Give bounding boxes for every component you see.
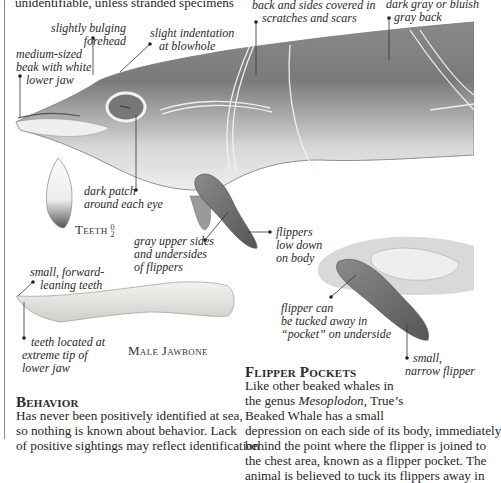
- intro-text-fragment: unidentifiable, unless stranded specimen…: [15, 0, 234, 10]
- text-span: the genus: [245, 393, 295, 408]
- label-line: lower jaw: [16, 74, 91, 87]
- flipper-pockets-text: Like other beaked whales in the genus Me…: [245, 378, 501, 483]
- label-line: gray back: [386, 11, 479, 24]
- teeth-caption-text: Teeth: [75, 222, 107, 237]
- label-beak: medium-sized beak with white lower jaw: [16, 48, 91, 87]
- label-line: around each eye: [84, 198, 163, 211]
- text-line: Beaked Whale has a small: [245, 408, 501, 423]
- text-line: depression on each side of its body, imm…: [245, 423, 501, 438]
- label-forward-teeth: small, forward- leaning teeth: [30, 266, 104, 292]
- label-flipper-color: gray upper sides and undersides of flipp…: [134, 235, 214, 274]
- text-line: so nothing is known about behavior. Lack: [16, 423, 260, 438]
- text-line: behind the point where the flipper is jo…: [245, 438, 501, 453]
- label-line: of flippers: [134, 261, 214, 274]
- text-line: Like other beaked whales in: [245, 378, 501, 393]
- label-line: scratches and scars: [252, 12, 376, 25]
- label-eye-patch: dark patch around each eye: [84, 185, 163, 211]
- label-line: at blowhole: [150, 40, 234, 53]
- label-line: leaning teeth: [30, 279, 104, 292]
- jawbone-caption: Male Jawbone: [128, 343, 208, 359]
- text-line: Has never been positively identified at …: [16, 408, 260, 423]
- teeth-caption: Teeth02: [75, 222, 115, 238]
- label-back-color: dark gray or bluish gray back: [386, 0, 479, 24]
- label-teeth-tip: teeth located at extreme tip of lower ja…: [22, 336, 105, 375]
- label-line: lower jaw: [22, 362, 105, 375]
- label-narrow-flipper: small, narrow flipper: [405, 352, 475, 378]
- label-blowhole: slight indentation at blowhole: [150, 27, 234, 53]
- label-line: on body: [276, 252, 322, 265]
- label-scratches: back and sides covered in scratches and …: [252, 0, 376, 25]
- label-line: “pocket” on underside: [281, 328, 391, 341]
- label-flipper-position: flippers low down on body: [276, 226, 322, 265]
- teeth-lower-count: 2: [110, 230, 114, 239]
- teeth-fraction: 02: [110, 224, 114, 238]
- text-line: the genus Mesoplodon, True’s: [245, 393, 501, 408]
- label-line: narrow flipper: [405, 365, 475, 378]
- label-forehead: slightly bulging forehead: [51, 22, 126, 48]
- text-line: animal is believed to tuck its flippers …: [245, 468, 501, 483]
- tooth-illustration: [46, 158, 72, 228]
- text-span: , True’s: [364, 393, 404, 408]
- behavior-text: Has never been positively identified at …: [16, 408, 260, 453]
- text-line: the chest area, known as a flipper pocke…: [245, 453, 501, 468]
- text-line: of positive sightings may reflect identi…: [16, 438, 260, 453]
- label-pocket: flipper can be tucked away in “pocket” o…: [281, 302, 391, 341]
- genus-name: Mesoplodon: [298, 393, 363, 408]
